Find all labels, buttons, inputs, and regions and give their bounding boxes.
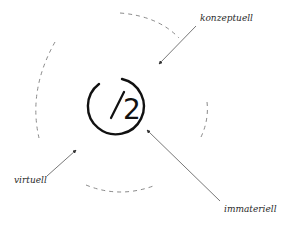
label-immateriell: immateriell	[224, 204, 277, 214]
label-konzeptuell: konzeptuell	[200, 13, 253, 23]
dashed-arc-bottom	[86, 185, 156, 192]
label-virtuell: virtuell	[14, 175, 47, 185]
diagram-canvas: 2 konzeptuell virtuell immateriell	[0, 0, 286, 225]
arrow-konzeptuell	[160, 26, 196, 63]
arrow-immateriell	[148, 131, 220, 201]
dashed-arc-top	[120, 13, 179, 38]
dashed-arc-right	[201, 102, 207, 137]
half-logo: 2	[88, 79, 144, 134]
logo-digit: 2	[123, 93, 141, 126]
dashed-arc-left	[36, 42, 55, 138]
arrow-virtuell	[47, 151, 75, 176]
